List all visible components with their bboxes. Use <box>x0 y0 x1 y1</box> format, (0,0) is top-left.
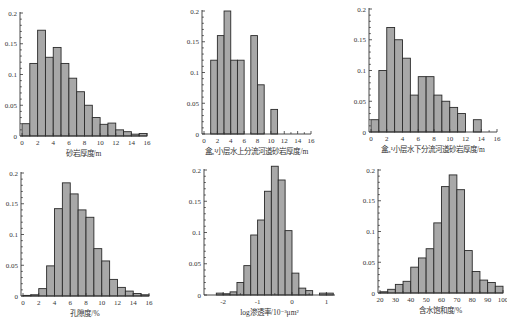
histogram-bar <box>434 95 442 132</box>
x-tick-label: 70 <box>453 296 461 304</box>
x-tick-label: 12 <box>462 135 470 143</box>
bars <box>371 27 481 132</box>
y-tick-label: 0.15 <box>187 38 200 46</box>
y-tick-label: 0.1 <box>8 71 17 79</box>
histogram-bar <box>387 27 395 132</box>
x-tick-label: 2 <box>36 139 40 147</box>
histogram-bar <box>388 289 396 293</box>
x-tick-label: 10 <box>98 299 106 307</box>
y-tick-label: 0.1 <box>192 229 201 237</box>
x-tick-label: 16 <box>144 139 152 147</box>
x-tick-label: 0 <box>20 139 24 147</box>
histogram-bar <box>217 36 224 134</box>
histogram-bar <box>488 283 496 293</box>
histogram-bar <box>125 291 133 296</box>
x-tick-label: 8 <box>432 135 436 143</box>
histogram-bar <box>237 283 244 296</box>
bars <box>211 11 278 134</box>
x-tick-label: 16 <box>308 137 316 145</box>
histogram-bar <box>100 124 108 136</box>
histogram-bar <box>47 266 55 296</box>
histogram-bar <box>251 235 258 295</box>
histogram-bar <box>379 71 387 133</box>
x-tick-label: 1 <box>325 298 329 306</box>
histogram-bar <box>78 210 86 296</box>
x-tick-label: 100 <box>498 296 507 304</box>
y-tick-label: 0.15 <box>189 198 202 206</box>
histogram-bar <box>62 183 70 296</box>
x-tick-label: -1 <box>255 298 261 306</box>
histogram-bar <box>426 249 434 293</box>
y-tick-label: 0.1 <box>366 228 375 236</box>
y-tick-label: 0.05 <box>189 260 202 268</box>
x-axis-label: 盒₈¹小层水上分流河道砂岩厚度/m <box>197 145 317 156</box>
x-tick-label: 4 <box>52 139 56 147</box>
y-tick-label: 0 <box>198 292 202 300</box>
y-tick-label: 0.2 <box>9 170 18 178</box>
histogram-bar <box>465 251 473 293</box>
histogram-bar <box>22 124 30 136</box>
plot-area: 00.050.10.150.22030405060708090100 <box>338 160 507 320</box>
plot-area: 00.050.10.150.20246810121416 <box>169 0 338 160</box>
bars <box>23 183 149 296</box>
histogram-bar <box>271 109 278 134</box>
histogram-bar <box>110 279 118 296</box>
histogram-bar <box>292 273 299 295</box>
x-tick-label: 8 <box>83 139 87 147</box>
histogram-bar <box>395 40 403 132</box>
histogram-bar <box>108 123 116 136</box>
x-axis-label: 含水饱和度/% <box>381 304 501 315</box>
x-axis-label: 盒₈¹小层水下分流河道砂岩厚度/m <box>373 143 493 154</box>
histogram-bar <box>53 47 61 136</box>
x-tick-label: 14 <box>130 299 138 307</box>
histogram-bar <box>237 60 244 134</box>
y-tick-label: 0 <box>15 293 19 301</box>
y-tick-label: 0.05 <box>354 98 367 106</box>
histogram-bar <box>458 114 466 132</box>
histogram-bar <box>403 58 411 132</box>
histogram-bar <box>395 284 403 293</box>
y-tick-label: 0 <box>363 129 367 137</box>
x-tick-label: 12 <box>114 299 122 307</box>
histogram-underwater-distributary-channel-thickness: 00.050.10.150.20246810121416盒₈¹小层水下分流河道砂… <box>338 0 507 160</box>
histogram-bar <box>116 130 124 136</box>
histogram-bar <box>480 280 488 293</box>
histogram-bar <box>77 92 85 136</box>
x-axis-label: log渗透率/10⁻³μm² <box>210 306 330 317</box>
y-tick-label: 0.05 <box>187 100 200 108</box>
y-tick-label: 0.15 <box>354 36 367 44</box>
x-tick-label: 16 <box>494 135 502 143</box>
y-tick-label: 0.05 <box>363 259 376 267</box>
histogram-bar <box>45 57 53 136</box>
histogram-bar <box>69 78 77 136</box>
x-tick-label: 2 <box>37 299 41 307</box>
plot-area: 00.050.10.150.20246810121416 <box>338 0 507 160</box>
x-tick-label: 80 <box>469 296 477 304</box>
histogram-bar <box>70 194 78 296</box>
x-tick-label: 0 <box>290 298 294 306</box>
x-tick-label: 14 <box>478 135 486 143</box>
histogram-bar <box>124 132 132 136</box>
histogram-bar <box>271 166 278 295</box>
x-tick-label: 10 <box>97 139 105 147</box>
histogram-bar <box>86 217 94 296</box>
x-tick-label: 10 <box>446 135 454 143</box>
x-tick-label: 6 <box>69 299 73 307</box>
histogram-water-saturation: 00.050.10.150.22030405060708090100含水饱和度/… <box>338 160 507 320</box>
x-tick-label: 4 <box>53 299 57 307</box>
x-tick-label: 16 <box>146 299 154 307</box>
histogram-bar <box>231 60 238 134</box>
y-tick-label: 0.1 <box>9 231 18 239</box>
histogram-bar <box>251 36 258 134</box>
histogram-bar <box>418 258 426 293</box>
x-tick-label: 12 <box>281 137 289 145</box>
x-tick-label: 4 <box>401 135 405 143</box>
x-tick-label: 10 <box>267 137 275 145</box>
histogram-bar <box>264 191 271 295</box>
histogram-bar <box>472 271 480 293</box>
x-axis-label: 孔隙度/% <box>25 307 145 318</box>
x-tick-label: 90 <box>484 296 492 304</box>
x-tick-label: 60 <box>438 296 446 304</box>
histogram-bar <box>410 95 418 132</box>
histogram-bar <box>258 85 265 134</box>
